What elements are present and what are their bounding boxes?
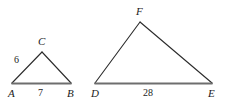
- side-length-ac: 6: [14, 55, 19, 65]
- geometry-figure: A B C 6 7 D E F 28: [0, 0, 226, 102]
- segment-cb: [42, 52, 71, 83]
- vertex-label-f: F: [136, 6, 143, 17]
- segment-fe: [140, 22, 212, 83]
- vertex-label-d: D: [91, 88, 99, 99]
- side-length-de: 28: [143, 88, 153, 98]
- vertex-label-e: E: [208, 88, 215, 99]
- vertex-label-b: B: [67, 88, 74, 99]
- vertex-label-c: C: [38, 36, 45, 47]
- triangles-drawing: [0, 0, 226, 102]
- vertex-label-a: A: [8, 88, 15, 99]
- side-length-ab: 7: [38, 88, 43, 98]
- segment-df: [95, 22, 140, 83]
